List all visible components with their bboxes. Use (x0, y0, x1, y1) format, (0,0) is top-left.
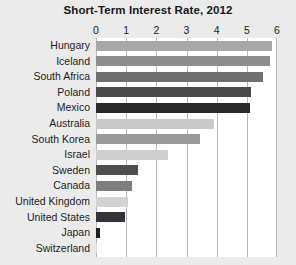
bar-row: Sweden (0, 163, 296, 179)
bar-row: South Africa (0, 69, 296, 85)
bar-row: Canada (0, 178, 296, 194)
bar-row: Japan (0, 225, 296, 241)
category-label-united-kingdom: United Kingdom (15, 195, 90, 207)
category-label-poland: Poland (57, 86, 90, 98)
bar-row: South Korea (0, 132, 296, 148)
chart-title: Short-Term Interest Rate, 2012 (0, 4, 296, 16)
bar-row: United States (0, 210, 296, 226)
x-tick-label-4: 4 (214, 24, 220, 36)
bar-row: Hungary (0, 38, 296, 54)
bar-south-korea[interactable] (96, 134, 200, 144)
bar-row: Australia (0, 116, 296, 132)
bar-mexico[interactable] (96, 103, 250, 113)
category-label-hungary: Hungary (50, 39, 90, 51)
chart-container: Short-Term Interest Rate, 2012 0123456 H… (0, 0, 296, 265)
category-label-australia: Australia (49, 117, 90, 129)
category-label-mexico: Mexico (57, 101, 90, 113)
bar-row: Mexico (0, 100, 296, 116)
x-tick-label-5: 5 (244, 24, 250, 36)
bar-japan[interactable] (96, 228, 100, 238)
bar-united-kingdom[interactable] (96, 197, 128, 207)
category-label-south-africa: South Africa (33, 70, 90, 82)
bar-israel[interactable] (96, 150, 168, 160)
bar-canada[interactable] (96, 181, 132, 191)
bar-row: Poland (0, 85, 296, 101)
bar-rows: HungaryIcelandSouth AfricaPolandMexicoAu… (0, 38, 296, 257)
bar-row: United Kingdom (0, 194, 296, 210)
x-tick-label-0: 0 (93, 24, 99, 36)
category-label-south-korea: South Korea (32, 133, 90, 145)
bar-hungary[interactable] (96, 41, 272, 51)
category-label-japan: Japan (61, 226, 90, 238)
bar-australia[interactable] (96, 119, 214, 129)
bar-united-states[interactable] (96, 212, 125, 222)
category-label-israel: Israel (64, 148, 90, 160)
bar-switzerland[interactable] (96, 243, 97, 253)
category-label-switzerland: Switzerland (36, 242, 90, 254)
x-axis-tick-labels: 0123456 (0, 24, 296, 38)
category-label-canada: Canada (53, 179, 90, 191)
category-label-united-states: United States (27, 211, 90, 223)
category-label-iceland: Iceland (56, 55, 90, 67)
x-tick-label-2: 2 (153, 24, 159, 36)
bar-row: Switzerland (0, 241, 296, 257)
bar-south-africa[interactable] (96, 72, 263, 82)
category-label-sweden: Sweden (52, 164, 90, 176)
bar-row: Iceland (0, 54, 296, 70)
bar-iceland[interactable] (96, 56, 270, 66)
x-tick-label-3: 3 (184, 24, 190, 36)
x-tick-label-1: 1 (123, 24, 129, 36)
bar-row: Israel (0, 147, 296, 163)
bar-poland[interactable] (96, 87, 251, 97)
bar-sweden[interactable] (96, 165, 138, 175)
x-tick-label-6: 6 (274, 24, 280, 36)
